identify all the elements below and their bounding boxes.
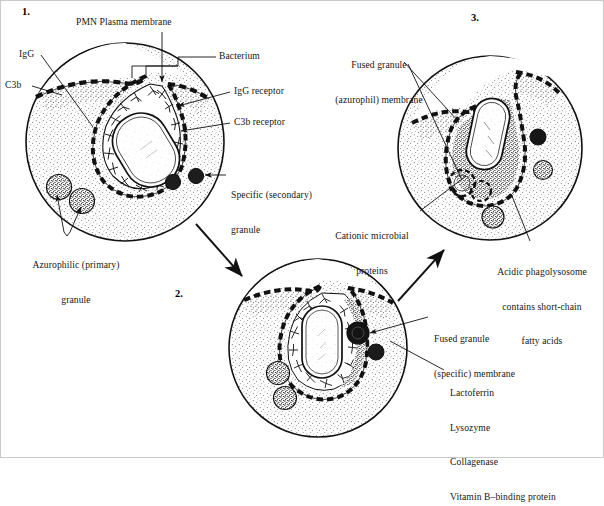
specific-granule bbox=[188, 168, 203, 183]
label-pmn-plasma-membrane: PMN Plasma membrane bbox=[76, 16, 172, 28]
label-azurophilic-primary-granule: Azurophilic (primary) granule bbox=[13, 236, 139, 317]
azurophilic-granule bbox=[534, 161, 553, 180]
label-specific-secondary-granule-line1: Specific (secondary) bbox=[231, 189, 312, 201]
cell-2-bacterium bbox=[302, 306, 342, 378]
label-igg-receptor: IgG receptor bbox=[234, 85, 284, 97]
step-number-2: 2. bbox=[175, 288, 183, 299]
label-fused-granule-specific-membrane-line1: Fused granule bbox=[434, 333, 515, 345]
label-azurophilic-primary-granule-line2: granule bbox=[13, 294, 139, 306]
label-fused-granule-azurophil-membrane: Fused granule (azurophil) membrane bbox=[320, 36, 438, 117]
label-vitamin-b-binding-protein: Vitamin B–binding protein bbox=[450, 491, 556, 503]
azurophilic-granule bbox=[267, 362, 290, 385]
label-cationic-microbial-proteins: Cationic microbial proteins bbox=[322, 207, 422, 288]
label-collagenase: Collagenase bbox=[450, 456, 556, 468]
specific-granule bbox=[530, 129, 546, 145]
label-fused-granule-azurophil-membrane-line1: Fused granule bbox=[320, 59, 438, 71]
label-specific-secondary-granule-line2: granule bbox=[231, 224, 312, 236]
azurophilic-granule bbox=[47, 175, 72, 200]
label-c3b: C3b bbox=[5, 79, 21, 91]
label-specific-secondary-granule: Specific (secondary) granule bbox=[231, 166, 312, 247]
cell-1-group bbox=[26, 43, 224, 241]
label-c3b-receptor: C3b receptor bbox=[234, 116, 285, 128]
label-lactoferrin: Lactoferrin bbox=[450, 387, 556, 399]
step-number-3: 3. bbox=[471, 12, 479, 23]
label-cationic-microbial-proteins-line2: proteins bbox=[322, 265, 422, 277]
label-specific-granule-contents: Lactoferrin Lysozyme Collagenase Vitamin… bbox=[450, 364, 556, 506]
label-acidic-phagolysosome-line1: Acidic phagolysosome bbox=[484, 266, 600, 278]
label-cationic-microbial-proteins-line1: Cationic microbial bbox=[322, 230, 422, 242]
azurophilic-granule bbox=[482, 206, 504, 228]
label-igg: IgG bbox=[19, 48, 34, 60]
azurophilic-granule bbox=[274, 387, 297, 410]
azurophilic-granule bbox=[70, 189, 95, 214]
label-lysozyme: Lysozyme bbox=[450, 422, 556, 434]
label-azurophilic-primary-granule-line1: Azurophilic (primary) bbox=[13, 259, 139, 271]
label-fused-granule-azurophil-membrane-line2: (azurophil) membrane bbox=[320, 94, 438, 106]
specific-granule bbox=[368, 344, 384, 360]
label-bacterium: Bacterium bbox=[219, 50, 260, 62]
specific-granule bbox=[165, 174, 180, 189]
step-number-1: 1. bbox=[22, 6, 30, 17]
